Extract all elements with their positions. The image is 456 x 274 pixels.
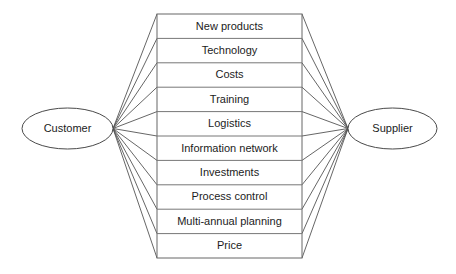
node-label-customer: Customer: [44, 122, 92, 134]
diagram-canvas: New productsTechnologyCostsTrainingLogis…: [0, 0, 456, 274]
connector-line-right: [302, 87, 348, 128]
connector-line-left: [113, 129, 157, 137]
table-row-label: New products: [196, 20, 264, 32]
node-label-supplier: Supplier: [372, 122, 413, 134]
connector-line-left: [113, 63, 157, 129]
table-row-label: Logistics: [208, 117, 251, 129]
table-row-label: Price: [217, 239, 242, 251]
right-connector-group: [302, 14, 348, 258]
connector-line-left: [113, 87, 157, 128]
table-row-label: Information network: [181, 142, 278, 154]
supply-chain-collaboration-diagram: New productsTechnologyCostsTrainingLogis…: [0, 0, 456, 274]
table-row-label: Training: [210, 93, 249, 105]
connector-line-right: [302, 63, 348, 129]
left-connector-group: [113, 14, 157, 258]
connector-line-right: [302, 129, 348, 137]
connector-line-right: [302, 129, 348, 259]
table-row-label: Costs: [215, 68, 244, 80]
connector-line-right: [302, 129, 348, 185]
connector-line-left: [113, 129, 157, 259]
connector-line-right: [302, 38, 348, 128]
connector-line-left: [113, 14, 157, 129]
attributes-table: New productsTechnologyCostsTrainingLogis…: [157, 14, 302, 258]
table-row-label: Multi-annual planning: [177, 215, 282, 227]
connector-line-left: [113, 38, 157, 128]
connector-line-left: [113, 129, 157, 210]
connector-line-right: [302, 129, 348, 210]
connector-line-left: [113, 129, 157, 185]
connector-line-right: [302, 14, 348, 129]
table-row-label: Technology: [202, 44, 258, 56]
table-row-label: Investments: [200, 166, 260, 178]
table-row-label: Process control: [192, 190, 268, 202]
